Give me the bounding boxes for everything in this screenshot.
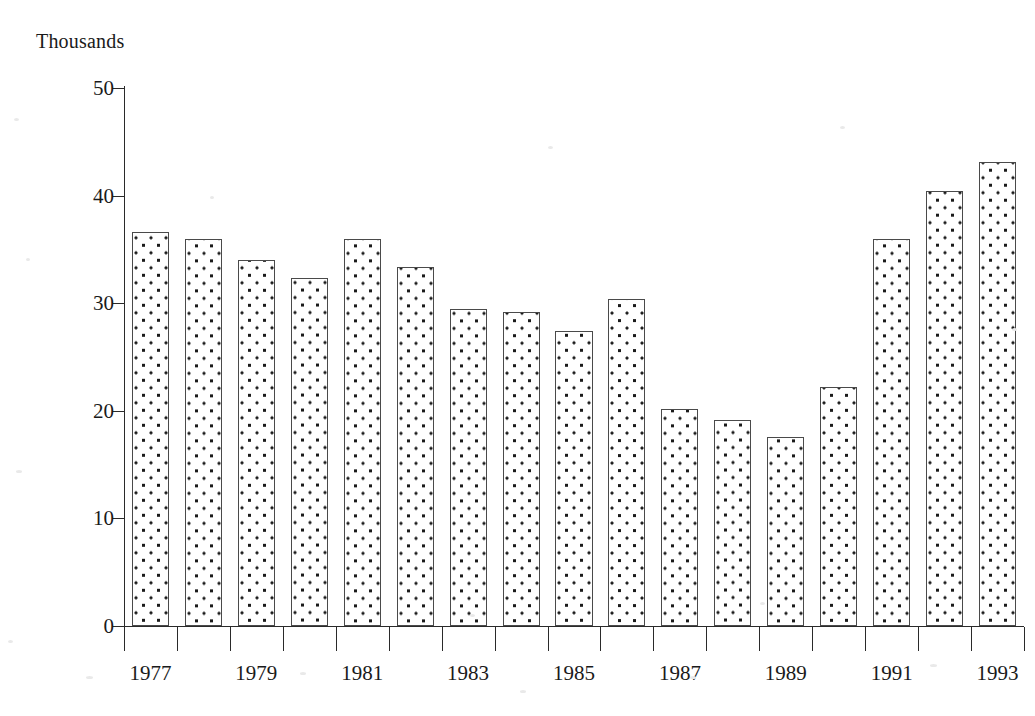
bar [979, 162, 1016, 626]
bar [714, 420, 751, 626]
bar [503, 312, 540, 626]
bar [344, 239, 381, 626]
scan-speckle [840, 126, 845, 129]
scan-speckle [1012, 328, 1017, 331]
x-axis-tick-mark [759, 627, 760, 651]
x-axis-tick-mark [865, 627, 866, 651]
bar [661, 409, 698, 626]
bar [397, 267, 434, 626]
x-axis-tick-mark [918, 627, 919, 651]
bar [608, 299, 645, 626]
scan-speckle [8, 640, 13, 643]
x-axis-tick-mark [336, 627, 337, 651]
bar [926, 191, 963, 626]
x-axis-tick-mark [389, 627, 390, 651]
x-axis-tick-label: 1981 [341, 661, 383, 686]
x-axis-tick-label: 1977 [129, 661, 171, 686]
x-axis-tick-label: 1989 [765, 661, 807, 686]
x-axis-tick-mark [230, 627, 231, 651]
x-axis-tick-mark [600, 627, 601, 651]
x-axis-tick-mark [971, 627, 972, 651]
y-axis-tick-label: 10 [93, 506, 114, 531]
y-axis-tick-label: 0 [104, 614, 115, 639]
bar [767, 437, 804, 626]
x-axis-tick-mark [1024, 627, 1025, 651]
x-axis-tick-label: 1991 [871, 661, 913, 686]
bar-chart: Thousands 01020304050 197719791981198319… [0, 0, 1035, 716]
bar [185, 239, 222, 626]
x-axis-tick-mark [495, 627, 496, 651]
bar [450, 309, 487, 626]
bar [555, 331, 592, 626]
x-axis-ticks: 197719791981198319851987198919911993 [124, 627, 1024, 707]
x-axis-tick-mark [812, 627, 813, 651]
scan-speckle [210, 196, 214, 199]
bar [238, 260, 275, 626]
y-axis-tick-label: 40 [93, 183, 114, 208]
x-axis-tick-label: 1979 [235, 661, 277, 686]
scan-speckle [690, 676, 696, 679]
bar [820, 387, 857, 626]
y-axis-tick-label: 30 [93, 291, 114, 316]
y-axis-tick-label: 20 [93, 398, 114, 423]
bar [132, 232, 169, 626]
x-axis-tick-label: 1993 [977, 661, 1019, 686]
scan-speckle [520, 690, 526, 693]
scan-speckle [86, 676, 93, 679]
scan-speckle [548, 146, 553, 149]
scan-speckle [760, 602, 765, 605]
scan-speckle [300, 672, 306, 675]
x-axis-tick-mark [124, 627, 125, 651]
y-axis-caption: Thousands [36, 30, 124, 53]
x-axis-tick-mark [548, 627, 549, 651]
scan-speckle [26, 258, 30, 261]
x-axis-tick-mark [442, 627, 443, 651]
scan-speckle [930, 664, 937, 667]
scan-speckle [16, 470, 22, 473]
scan-speckle [14, 118, 19, 121]
bar [291, 278, 328, 626]
x-axis-tick-mark [706, 627, 707, 651]
x-axis-tick-mark [653, 627, 654, 651]
x-axis-tick-mark [283, 627, 284, 651]
scan-speckle [470, 614, 475, 617]
x-axis-tick-label: 1987 [659, 661, 701, 686]
bar [873, 239, 910, 626]
y-axis-tick-label: 50 [93, 76, 114, 101]
x-axis-tick-label: 1983 [447, 661, 489, 686]
x-axis-tick-label: 1985 [553, 661, 595, 686]
plot-area: 01020304050 [124, 88, 1024, 626]
x-axis-tick-mark [177, 627, 178, 651]
